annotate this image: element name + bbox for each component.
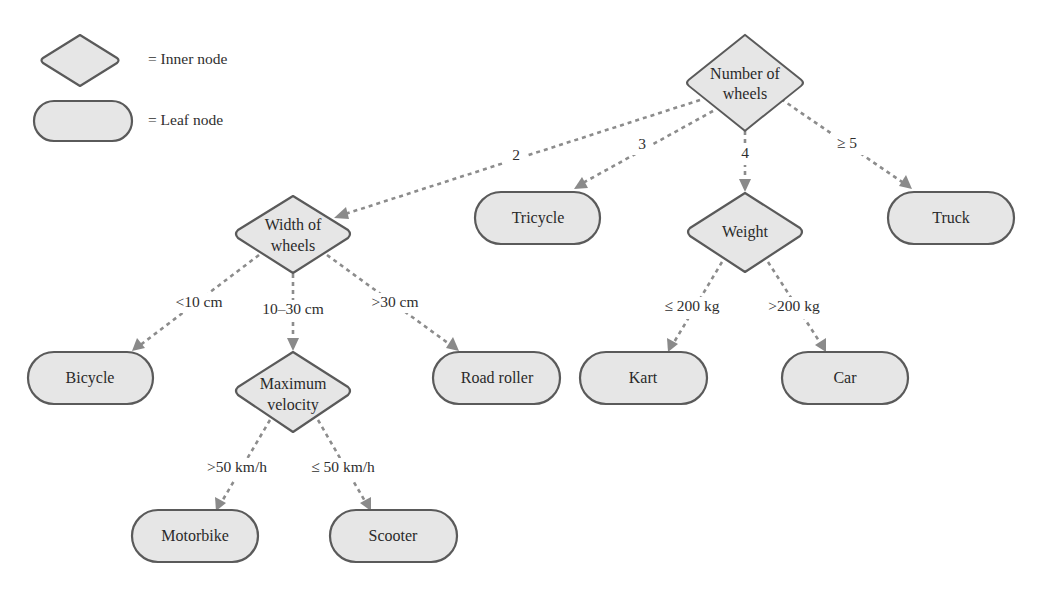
- edge-weight-to-kart: ≤ 200 kg: [657, 262, 725, 352]
- inner-node-weight: Weight: [688, 193, 802, 272]
- edge-root-to-truck: ≥ 5: [781, 99, 912, 189]
- legend: = Inner node = Leaf node: [34, 35, 227, 141]
- edge-width-to-roadroller: >30 cm: [327, 255, 459, 351]
- node-label: Kart: [629, 369, 658, 386]
- node-label: Tricycle: [512, 209, 565, 227]
- arrow-head-icon: [446, 337, 459, 351]
- arrow-head-icon: [334, 207, 349, 219]
- edge-label: 2: [512, 146, 520, 163]
- leaf-node-road-roller: Road roller: [433, 352, 560, 404]
- node-label: Weight: [722, 223, 768, 241]
- legend-leaf-node-label: = Leaf node: [148, 111, 223, 128]
- edge-label: ≤ 50 km/h: [311, 458, 375, 475]
- inner-node-width-of-wheels: Width of wheels: [236, 196, 350, 273]
- node-label-line-1: Width of: [265, 216, 322, 233]
- edge-label: 4: [741, 144, 749, 161]
- node-label: Road roller: [461, 369, 534, 386]
- edge-label: 3: [638, 135, 646, 152]
- leaf-node-tricycle: Tricycle: [475, 192, 600, 244]
- edge-label: <10 cm: [175, 293, 222, 310]
- edge-width-to-velocity: 10–30 cm: [255, 274, 331, 351]
- leaf-node-scooter: Scooter: [330, 510, 457, 562]
- edge-weight-to-car: >200 kg: [762, 262, 826, 352]
- edge-label: 10–30 cm: [262, 300, 324, 317]
- arrow-head-icon: [815, 338, 826, 352]
- arrow-head-icon: [574, 177, 588, 189]
- leaf-node-bicycle: Bicycle: [28, 352, 153, 404]
- legend-leaf-node-pill-icon: [34, 101, 132, 141]
- node-label: Bicycle: [66, 369, 115, 387]
- edge-label: >50 km/h: [207, 458, 267, 475]
- edge-label: >200 kg: [768, 297, 820, 314]
- arrow-head-icon: [739, 179, 751, 192]
- leaf-node-kart: Kart: [580, 352, 707, 404]
- node-label-line-2: wheels: [271, 237, 315, 254]
- leaf-node-truck: Truck: [888, 192, 1014, 244]
- node-label-line-2: wheels: [723, 85, 767, 102]
- node-label: Car: [833, 369, 857, 386]
- node-label-line-1: Number of: [710, 65, 780, 82]
- edge-width-to-bicycle: <10 cm: [132, 255, 259, 351]
- node-label-line-2: velocity: [267, 396, 319, 414]
- edge-velocity-to-scooter: ≤ 50 km/h: [305, 420, 381, 511]
- node-label: Scooter: [369, 527, 419, 544]
- node-label: Truck: [932, 209, 970, 226]
- edge-label: ≤ 200 kg: [664, 297, 719, 314]
- inner-node-maximum-velocity: Maximum velocity: [236, 352, 350, 432]
- node-label: Motorbike: [161, 527, 229, 544]
- decision-tree-diagram: = Inner node = Leaf node 2 3 4: [0, 0, 1038, 593]
- arrow-head-icon: [287, 338, 299, 351]
- node-label-line-1: Maximum: [260, 375, 327, 392]
- edges: 2 3 4 ≥ 5 <10 cm: [132, 99, 912, 511]
- edge-label: ≥ 5: [837, 134, 857, 151]
- legend-inner-node-diamond-icon: [42, 35, 119, 86]
- legend-inner-node-label: = Inner node: [148, 50, 227, 67]
- edge-label: >30 cm: [371, 293, 418, 310]
- edge-velocity-to-motorbike: >50 km/h: [201, 420, 273, 511]
- leaf-node-motorbike: Motorbike: [132, 510, 258, 562]
- leaf-node-car: Car: [782, 352, 908, 404]
- edge-root-to-tricycle: 3: [574, 111, 713, 189]
